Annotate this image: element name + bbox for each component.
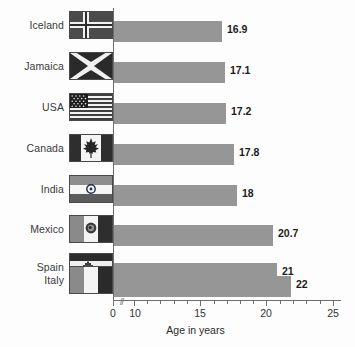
bar-italy — [114, 276, 291, 297]
bar-canada — [114, 144, 234, 165]
category-label: Italy — [44, 274, 64, 286]
x-tick-minor — [280, 300, 281, 304]
bar-chart: Iceland Jamaica USA — [0, 0, 355, 347]
x-tick-20 — [266, 300, 267, 306]
x-axis-title: Age in years — [0, 324, 355, 336]
flag-italy-icon — [69, 266, 113, 294]
x-tick-minor — [187, 300, 188, 304]
chart-row: India — [0, 174, 113, 203]
x-tick-minor — [227, 300, 228, 304]
x-tick-minor — [320, 300, 321, 304]
bar-india — [114, 185, 237, 206]
category-label: India — [41, 183, 64, 195]
category-label: USA — [42, 101, 64, 113]
bar-value-label: 17.8 — [239, 146, 259, 158]
chart-row: Mexico — [0, 214, 113, 243]
chart-row: Italy — [0, 265, 113, 294]
x-tick-10 — [134, 300, 135, 306]
x-tick-0 — [113, 300, 114, 306]
category-label: Iceland — [29, 19, 64, 31]
x-tick-minor — [147, 300, 148, 304]
bar-value-label: 16.9 — [227, 23, 247, 35]
chart-row: Canada — [0, 133, 113, 162]
x-tick-minor — [160, 300, 161, 304]
x-axis-title-text: Age in years — [166, 324, 224, 336]
bar-value-label: 20.7 — [278, 227, 298, 239]
chart-row: USA — [0, 92, 113, 121]
bar-value-label: 17.1 — [230, 64, 250, 76]
plot-area: 16.9 17.1 17.2 17.8 18 20.7 21 22 — [113, 8, 341, 300]
bar-iceland — [114, 21, 222, 42]
bar-value-label: 18 — [242, 187, 254, 199]
x-tick-minor — [214, 300, 215, 304]
x-tick-label: 20 — [260, 307, 272, 319]
flag-usa-icon — [69, 93, 113, 121]
bar-value-label: 21 — [282, 265, 294, 277]
x-tick-minor — [306, 300, 307, 304]
flag-canada-icon — [69, 134, 113, 162]
category-label: Jamaica — [24, 60, 64, 72]
x-tick-label: 10 — [129, 307, 141, 319]
flag-mexico-icon — [69, 215, 113, 243]
x-tick-label: 25 — [327, 307, 339, 319]
x-tick-minor — [253, 300, 254, 304]
flag-india-icon — [69, 175, 113, 203]
bar-mexico — [114, 225, 273, 246]
category-label: Mexico — [30, 223, 64, 235]
bar-usa — [114, 103, 226, 124]
flag-jamaica-icon — [69, 52, 113, 80]
bar-jamaica — [114, 62, 225, 83]
x-tick-minor — [293, 300, 294, 304]
x-tick-label: 15 — [194, 307, 206, 319]
x-tick-minor — [240, 300, 241, 304]
axis-break-marker: // — [120, 297, 123, 307]
x-tick-label: 0 — [110, 307, 116, 319]
x-tick-25 — [333, 300, 334, 306]
flag-iceland-icon — [69, 11, 113, 39]
x-tick-minor — [174, 300, 175, 304]
chart-row: Jamaica — [0, 51, 113, 80]
category-label: Canada — [27, 142, 64, 154]
chart-row: Iceland — [0, 10, 113, 39]
bar-value-label: 22 — [296, 278, 308, 290]
bar-value-label: 17.2 — [231, 105, 251, 117]
x-tick-15 — [200, 300, 201, 306]
